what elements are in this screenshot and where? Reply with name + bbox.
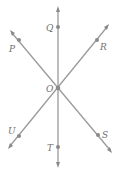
point-t xyxy=(56,145,60,149)
point-p xyxy=(17,38,21,42)
point-s xyxy=(96,133,100,137)
intersecting-lines-diagram: Q P R O U S T xyxy=(0,0,117,171)
label-p: P xyxy=(8,44,16,54)
arrowhead-up-icon xyxy=(56,6,60,12)
label-u: U xyxy=(8,126,16,136)
label-s: S xyxy=(102,130,108,140)
label-r: R xyxy=(99,42,107,52)
arrowhead-down-icon xyxy=(56,162,60,168)
label-q: Q xyxy=(46,23,54,33)
point-r xyxy=(95,38,99,42)
point-o xyxy=(56,86,61,91)
label-t: T xyxy=(47,143,54,153)
label-o: O xyxy=(46,84,54,94)
point-u xyxy=(17,134,21,138)
point-q xyxy=(56,25,60,29)
